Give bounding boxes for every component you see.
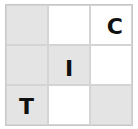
grid-cell-r0-c1[interactable] xyxy=(48,5,90,45)
grid-cell-r1-c2[interactable] xyxy=(90,45,132,85)
grid-cell-r2-c2[interactable] xyxy=(90,85,132,125)
grid-cell-r1-c1[interactable]: I xyxy=(48,45,90,85)
grid-cell-r2-c1[interactable] xyxy=(48,85,90,125)
grid-cell-r0-c0[interactable] xyxy=(6,5,48,45)
grid-cell-r2-c0[interactable]: T xyxy=(6,85,48,125)
cell-letter: C xyxy=(107,16,123,38)
cell-letter: T xyxy=(19,96,34,118)
grid-cell-r0-c2[interactable]: C xyxy=(90,5,132,45)
cell-letter: I xyxy=(65,58,73,80)
tic-tac-toe-grid: C I T xyxy=(5,4,133,126)
grid-cell-r1-c0[interactable] xyxy=(6,45,48,85)
